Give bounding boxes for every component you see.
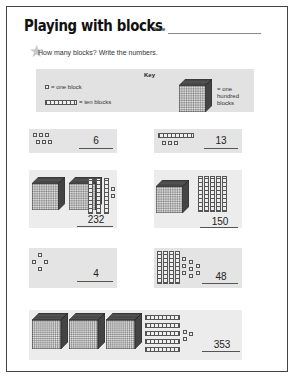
problem-4-panel: 150 xyxy=(154,170,242,228)
answer-4[interactable]: 150 xyxy=(202,216,238,227)
ten-rod-icon xyxy=(145,339,180,344)
ten-rod-icon xyxy=(222,176,227,212)
unit-block-icon xyxy=(196,264,200,268)
unit-block-icon xyxy=(42,140,46,144)
unit-block-icon xyxy=(189,267,193,271)
hundred-cube-icon xyxy=(179,79,212,112)
answer-line xyxy=(204,148,238,149)
ten-rod-icon xyxy=(157,251,162,284)
unit-block-icon xyxy=(44,260,48,264)
problem-5-panel: 4 xyxy=(29,248,117,288)
key-one-label: = one block xyxy=(51,84,82,90)
answer-line xyxy=(200,227,238,228)
ten-rod-icon xyxy=(216,176,221,212)
answer-6[interactable]: 48 xyxy=(204,271,238,282)
unit-block-icon xyxy=(111,194,115,198)
ones-row xyxy=(36,140,52,144)
ten-rod-icon xyxy=(145,315,180,320)
answer-5[interactable]: 4 xyxy=(79,268,113,279)
key-one-block: = one block xyxy=(45,84,82,90)
ten-rod-icon xyxy=(175,251,180,284)
answer-2[interactable]: 13 xyxy=(204,135,238,146)
ten-rod-icon xyxy=(158,133,194,138)
answer-1[interactable]: 6 xyxy=(79,135,113,146)
hundred-cube-icon xyxy=(69,313,105,349)
unit-block-icon xyxy=(168,141,172,145)
ten-rod-icon xyxy=(204,176,209,212)
ten-rod-icon xyxy=(145,347,180,352)
answer-7[interactable]: 353 xyxy=(204,339,240,350)
hundred-cube-icon xyxy=(106,313,142,349)
answer-3[interactable]: 232 xyxy=(79,214,113,225)
hundred-cube-icon xyxy=(32,313,68,349)
problem-7-panel: 353 xyxy=(29,310,242,360)
name-field[interactable] xyxy=(168,33,261,34)
ten-rod-icon xyxy=(45,100,77,105)
ones-row xyxy=(33,133,49,137)
page-title: Playing with blocks xyxy=(24,17,163,35)
unit-block-icon xyxy=(189,274,193,278)
key-hundred-label: = one hundred blocks xyxy=(217,86,253,107)
key-title: Key xyxy=(144,72,155,78)
unit-block-icon xyxy=(182,264,186,268)
ten-rod-icon xyxy=(198,176,203,212)
hundred-cube-icon xyxy=(32,177,65,210)
unit-block-icon xyxy=(111,187,115,191)
unit-block-icon xyxy=(189,332,193,336)
answer-line xyxy=(202,351,240,352)
unit-block-icon xyxy=(45,85,49,89)
unit-block-icon xyxy=(189,260,193,264)
unit-block-icon xyxy=(162,141,166,145)
problem-2-panel: 13 xyxy=(154,129,242,153)
key-box: Key = one block = ten blocks = one hundr… xyxy=(36,69,254,112)
hundred-cube-icon xyxy=(156,180,189,213)
ten-rod-icon xyxy=(210,176,215,212)
unit-block-icon xyxy=(32,260,36,264)
problem-3-panel: 232 xyxy=(29,170,117,228)
ten-rod-icon xyxy=(163,251,168,284)
unit-block-icon xyxy=(38,253,42,257)
problem-1-panel: 6 xyxy=(29,129,117,153)
name-label: Name xyxy=(153,27,165,32)
unit-block-icon xyxy=(38,267,42,271)
answer-line xyxy=(79,148,113,149)
unit-block-icon xyxy=(183,330,187,334)
instructions-text: How many blocks? Write the numbers. xyxy=(38,49,158,56)
unit-block-icon xyxy=(182,257,186,261)
unit-block-icon xyxy=(182,271,186,275)
unit-block-icon xyxy=(39,133,43,137)
ten-rod-icon xyxy=(96,178,101,214)
unit-block-icon xyxy=(45,133,49,137)
unit-block-icon xyxy=(36,140,40,144)
ones-row xyxy=(162,141,178,145)
problem-6-panel: 48 xyxy=(154,248,242,288)
ten-rod-icon xyxy=(88,178,93,214)
unit-block-icon xyxy=(174,141,178,145)
ten-rod-icon xyxy=(169,251,174,284)
unit-block-icon xyxy=(196,271,200,275)
answer-line xyxy=(202,283,238,284)
answer-line xyxy=(77,281,113,282)
key-ten-label: = ten blocks xyxy=(79,99,111,105)
ten-rod-icon xyxy=(145,331,180,336)
unit-block-icon xyxy=(33,133,37,137)
ten-rod-icon xyxy=(145,323,180,328)
key-ten-blocks: = ten blocks xyxy=(45,99,111,105)
unit-block-icon xyxy=(48,140,52,144)
unit-block-icon xyxy=(183,337,187,341)
answer-line xyxy=(77,226,113,227)
ten-rod-icon xyxy=(104,178,109,214)
